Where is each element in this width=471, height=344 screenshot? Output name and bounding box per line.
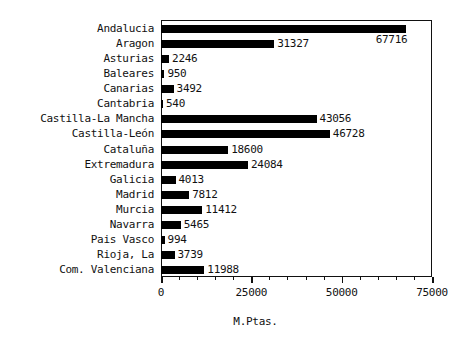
category-label: Navarra	[110, 219, 154, 230]
bar-row: 11412	[161, 206, 432, 214]
bar-value-label: 7812	[192, 189, 217, 200]
x-tick-minor	[360, 277, 361, 280]
chart-screenshot: AndaluciaAragonAsturiasBalearesCanariasC…	[0, 0, 471, 344]
bar	[161, 130, 330, 138]
category-label: Pais Vasco	[91, 234, 154, 245]
bar-value-label: 24084	[251, 159, 283, 170]
bar-value-label: 11988	[207, 265, 239, 276]
x-tick-minor	[324, 277, 325, 280]
bar-row: 540	[161, 100, 432, 108]
bar-row: 3492	[161, 85, 432, 93]
bar-value-label: 11412	[205, 204, 237, 215]
bar-value-label: 31327	[277, 38, 309, 49]
bar-value-label: 4013	[179, 174, 204, 185]
bar-row: 2246	[161, 55, 432, 63]
x-tick-major	[432, 277, 434, 283]
bar-row: 11988	[161, 266, 432, 274]
category-label: Cataluña	[103, 144, 154, 155]
bar-row: 46728	[161, 130, 432, 138]
x-axis-ticks	[161, 277, 432, 285]
bar-value-label: 2246	[172, 53, 197, 64]
x-tick-label: 75000	[416, 286, 448, 299]
x-tick-minor	[197, 277, 198, 280]
bar-value-label: 994	[168, 234, 187, 245]
bar-row: 950	[161, 70, 432, 78]
category-label: Andalucia	[97, 23, 154, 34]
bar-row: 5465	[161, 221, 432, 229]
bar	[161, 70, 164, 78]
x-tick-minor	[396, 277, 397, 280]
bar	[161, 161, 248, 169]
x-tick-minor	[414, 277, 415, 280]
x-axis-title-text: M.Ptas.	[233, 315, 277, 328]
x-axis-title: M.Ptas.	[0, 315, 471, 328]
category-label: Rioja, La	[97, 249, 154, 260]
bar	[161, 100, 163, 108]
category-label: Com. Valenciana	[59, 264, 154, 275]
category-label: Castilla-León	[72, 128, 154, 139]
x-tick-label: 50000	[326, 286, 358, 299]
x-tick-minor	[233, 277, 234, 280]
bar-row: 4013	[161, 176, 432, 184]
x-tick-label: 25000	[236, 286, 268, 299]
x-tick-major	[161, 277, 163, 283]
bar-value-label: 46728	[333, 129, 365, 140]
x-tick-minor	[378, 277, 379, 280]
x-tick-minor	[179, 277, 180, 280]
bar	[161, 115, 317, 123]
bar	[161, 191, 189, 199]
bar	[161, 251, 175, 259]
category-label: Baleares	[103, 68, 154, 79]
bar	[161, 85, 174, 93]
bar-row: 31327	[161, 40, 432, 48]
bar-row: 24084	[161, 161, 432, 169]
category-label: Cantabria	[97, 98, 154, 109]
category-label: Asturias	[103, 53, 154, 64]
x-tick-minor	[287, 277, 288, 280]
bar-row: 994	[161, 236, 432, 244]
x-axis-tick-labels: 0250005000075000	[0, 286, 471, 302]
bar	[161, 25, 406, 33]
category-label: Aragon	[116, 38, 154, 49]
category-label: Madrid	[116, 189, 154, 200]
x-tick-major	[342, 277, 344, 283]
bar-value-label: 3739	[178, 250, 203, 261]
x-tick-label: 0	[158, 286, 164, 299]
bar-value-label: 5465	[184, 219, 209, 230]
bar-value-label: 43056	[320, 114, 352, 125]
bar	[161, 176, 176, 184]
category-label: Canarias	[103, 83, 154, 94]
bar-value-label: 18600	[231, 144, 263, 155]
bar-row: 43056	[161, 115, 432, 123]
bar	[161, 55, 169, 63]
bar	[161, 236, 165, 244]
x-tick-major	[251, 277, 253, 283]
bar	[161, 221, 181, 229]
bars-layer: 6771631327224695034925404305646728186002…	[161, 20, 432, 277]
bar-row: 18600	[161, 146, 432, 154]
bar	[161, 206, 202, 214]
category-label: Murcia	[116, 204, 154, 215]
bar-value-label: 3492	[177, 83, 202, 94]
bar-value-label: 950	[167, 68, 186, 79]
bar-row: 67716	[161, 25, 432, 33]
x-tick-minor	[269, 277, 270, 280]
bar	[161, 266, 204, 274]
bar-row: 7812	[161, 191, 432, 199]
x-tick-minor	[215, 277, 216, 280]
bar	[161, 146, 228, 154]
bar-row: 3739	[161, 251, 432, 259]
category-axis-labels: AndaluciaAragonAsturiasBalearesCanariasC…	[0, 20, 158, 277]
category-label: Castilla-La Mancha	[40, 113, 154, 124]
category-label: Galicia	[110, 174, 154, 185]
category-label: Extremadura	[84, 159, 154, 170]
x-tick-minor	[306, 277, 307, 280]
bar-value-label: 540	[166, 98, 185, 109]
bar	[161, 40, 274, 48]
